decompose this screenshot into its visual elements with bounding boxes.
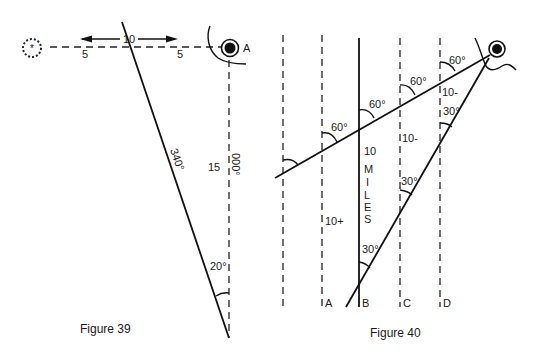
figure-40: A B C D 60° 60° 60° 60° 30° 30° 30° 10+	[275, 35, 516, 340]
point-a-label: A	[243, 42, 251, 54]
bearing-340-line	[122, 22, 229, 338]
angle-arc-60-b	[359, 110, 374, 118]
line-label-d: D	[443, 297, 451, 309]
miles-letter-e: E	[364, 201, 371, 213]
angle-arc-20	[216, 293, 229, 296]
distance-left-label: 5	[82, 48, 88, 60]
distance-label-c: 10-	[402, 132, 418, 144]
angle-60-label-d: 60°	[449, 54, 466, 66]
distance-label-d: 10-	[442, 86, 458, 98]
line-label-a: A	[325, 297, 333, 309]
miles-letter-l: L	[364, 189, 370, 201]
angle-30-label-c: 30°	[401, 175, 418, 187]
figure-40-caption: Figure 40	[370, 326, 421, 340]
point-a-marker-icon	[208, 26, 246, 64]
angle-60-label-b: 60°	[369, 98, 386, 110]
target-marker-icon	[475, 38, 516, 70]
angle-60-label-a: 60°	[331, 121, 348, 133]
line-label-c: C	[403, 297, 411, 309]
angle-60-label-c: 60°	[410, 75, 427, 87]
angle-30-label-b: 30°	[362, 243, 379, 255]
figure-39: * 10 5 5 340° A 15 000° 20° Figure	[23, 22, 251, 338]
angle-arc-30-c	[400, 190, 412, 195]
figure-39-caption: Figure 39	[80, 322, 131, 336]
miles-letter-s: S	[364, 213, 371, 225]
angle-arc-30-b	[359, 262, 370, 268]
star-symbol-icon: *	[23, 39, 41, 57]
vertical-bearing-label: 000°	[230, 153, 242, 176]
distance-right-label: 5	[177, 48, 183, 60]
angle-arc-60-a	[322, 133, 337, 142]
distance-label-a: 10+	[325, 215, 344, 227]
miles-letter-i: I	[366, 176, 369, 188]
vertical-distance-label: 15	[208, 161, 220, 173]
miles-letter-m: M	[364, 163, 373, 175]
distance-label-b: 10	[364, 145, 376, 157]
diagram-canvas: * 10 5 5 340° A 15 000° 20° Figure	[0, 0, 541, 357]
line-label-b: B	[362, 297, 369, 309]
angle-arc-60-left	[283, 160, 298, 165]
angle-30-label-d: 30°	[443, 105, 460, 117]
angle-20-label: 20°	[210, 260, 227, 272]
svg-text:*: *	[30, 43, 34, 54]
